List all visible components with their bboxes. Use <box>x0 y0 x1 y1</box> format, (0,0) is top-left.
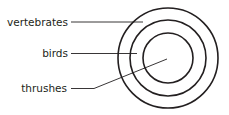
vertebrates-label: vertebrates <box>7 16 68 28</box>
thrushes-label: thrushes <box>21 82 67 94</box>
nested-circles-diagram: vertebrates birds thrushes <box>0 0 229 115</box>
vertebrates-circle <box>118 8 218 108</box>
birds-label: birds <box>42 47 68 59</box>
thrushes-circle <box>143 33 193 83</box>
birds-circle <box>130 20 206 96</box>
